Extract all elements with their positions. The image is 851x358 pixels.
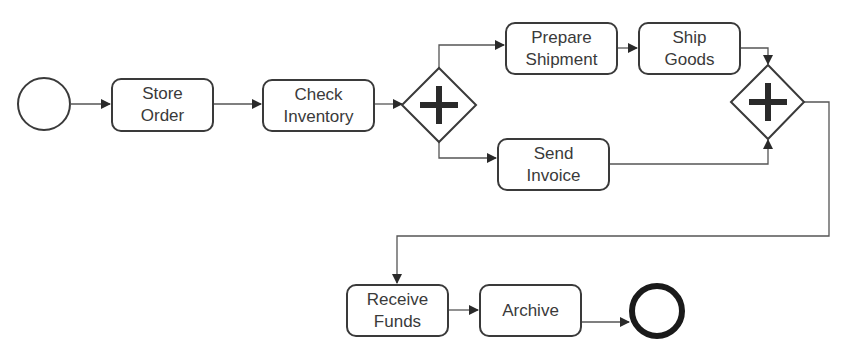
task-check-inventory[interactable]: Check Inventory [262, 79, 375, 132]
flow-ship-goods-to-join[interactable] [741, 48, 768, 64]
task-store-order[interactable]: Store Order [111, 78, 214, 132]
parallel-gateway-join[interactable] [731, 65, 804, 139]
flow-send-invoice-to-join[interactable] [610, 140, 768, 164]
flow-split-to-prepare-shipment[interactable] [439, 45, 504, 68]
task-receive-funds[interactable]: Receive Funds [346, 284, 449, 337]
parallel-gateway-split[interactable] [402, 68, 476, 142]
task-label: Check Inventory [284, 84, 354, 128]
task-label: Prepare Shipment [526, 27, 598, 71]
task-ship-goods[interactable]: Ship Goods [638, 22, 741, 75]
task-label: Send Invoice [527, 143, 581, 187]
task-label: Store Order [141, 83, 184, 127]
flow-split-to-send-invoice[interactable] [439, 142, 496, 158]
task-archive[interactable]: Archive [479, 284, 582, 337]
task-label: Ship Goods [664, 27, 714, 71]
task-prepare-shipment[interactable]: Prepare Shipment [505, 22, 618, 75]
start-event-circle[interactable] [18, 78, 70, 130]
end-event-circle[interactable] [632, 286, 682, 336]
task-send-invoice[interactable]: Send Invoice [497, 138, 610, 191]
task-label: Archive [502, 300, 559, 322]
task-label: Receive Funds [367, 289, 428, 333]
